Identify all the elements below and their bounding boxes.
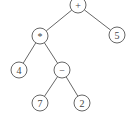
tree-node-five: 5 [109,27,125,43]
edge-plus-times [46,10,72,31]
tree-node-plus: + [70,0,86,13]
edge-minus-seven [44,77,57,97]
node-label: 2 [80,98,85,109]
node-label: 7 [38,98,43,109]
edge-times-four [23,43,36,63]
node-label: 4 [17,65,22,76]
edge-times-minus [44,43,57,64]
node-label: − [59,65,65,76]
tree-node-two: 2 [74,95,90,111]
edge-plus-five [84,10,110,30]
tree-node-minus: − [54,62,70,78]
edges [23,10,110,96]
tree-node-seven: 7 [32,95,48,111]
node-label: * [38,31,43,42]
expression-tree-diagram: +*54−72 [0,0,129,119]
node-label: 5 [115,30,120,41]
edge-minus-two [66,77,78,96]
node-label: + [75,0,81,11]
tree-node-four: 4 [11,62,27,78]
tree-node-times: * [32,28,48,44]
